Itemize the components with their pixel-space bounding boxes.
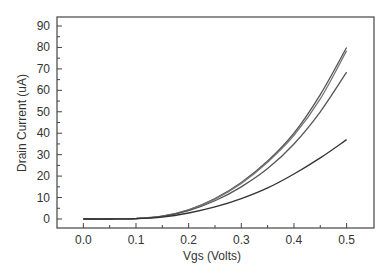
y-tick-label: 10: [37, 191, 51, 205]
y-tick-label: 80: [37, 40, 51, 54]
y-axis: 0102030405060708090: [37, 19, 62, 226]
x-axis: 0.00.10.20.30.40.5: [75, 223, 355, 247]
x-tick-label: 0.5: [338, 233, 355, 247]
y-tick-label: 0: [43, 212, 50, 226]
y-tick-label: 40: [37, 126, 51, 140]
y-tick-label: 90: [37, 19, 51, 33]
x-tick-label: 0.3: [233, 233, 250, 247]
series-line-4: [83, 140, 346, 219]
plot-lines: [83, 47, 346, 219]
chart: 0.00.10.20.30.40.5 0102030405060708090 V…: [0, 0, 392, 277]
x-tick-label: 0.1: [128, 233, 145, 247]
y-tick-label: 30: [37, 148, 51, 162]
y-tick-label: 70: [37, 62, 51, 76]
x-tick-label: 0.4: [286, 233, 303, 247]
series-line-2: [83, 51, 346, 219]
y-tick-label: 50: [37, 105, 51, 119]
series-line-1: [83, 47, 346, 219]
x-tick-label: 0.2: [180, 233, 197, 247]
x-axis-title: Vgs (Volts): [183, 249, 241, 263]
plot-frame: [57, 17, 374, 228]
y-tick-label: 20: [37, 169, 51, 183]
series-line-3: [83, 72, 346, 219]
y-tick-label: 60: [37, 83, 51, 97]
x-tick-label: 0.0: [75, 233, 92, 247]
y-axis-title: Drain Current (uA): [15, 74, 29, 172]
